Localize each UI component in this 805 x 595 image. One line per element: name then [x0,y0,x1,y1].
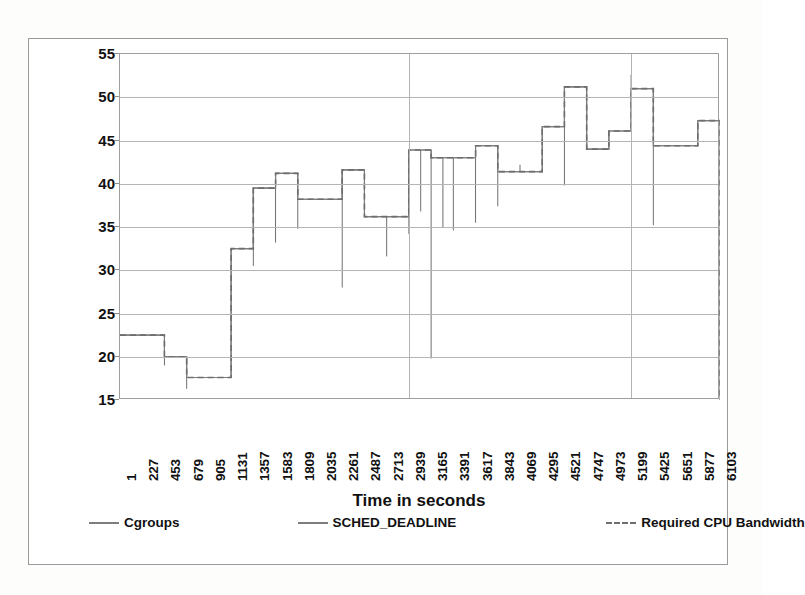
x-axis-ticks: 1227453679905113113571583180920352261248… [119,403,719,485]
x-tick-label: 3843 [502,452,517,481]
gridline [120,314,718,315]
x-tick-label: 5425 [657,452,672,481]
gridline [120,357,718,358]
y-tick-label: 50 [75,88,115,105]
y-tick-mark [114,269,119,270]
legend-item[interactable]: Required CPU Bandwidth [606,516,805,530]
x-tick-label: 5651 [680,452,695,481]
y-tick-label: 30 [75,261,115,278]
legend-item[interactable]: Cgroups [89,516,180,530]
legend-item[interactable]: SCHED_DEADLINE [298,516,457,530]
x-tick-label: 6103 [724,452,739,481]
x-tick-label: 5199 [635,452,650,481]
y-tick-mark [114,356,119,357]
x-tick-label: 4521 [568,452,583,481]
x-tick-label: 1357 [257,452,272,481]
gridline [120,141,718,142]
y-tick-mark [114,53,119,54]
chart-frame: Cpu Bandwidth % 555045403530252015 12274… [28,38,728,565]
y-tick-mark [114,183,119,184]
legend-dashed-line-icon [606,522,636,524]
gridline [120,184,718,185]
x-tick-label: 4295 [546,452,561,481]
gridline [120,270,718,271]
y-tick-mark [114,96,119,97]
y-tick-label: 15 [75,391,115,408]
x-tick-label: 227 [146,459,161,481]
y-tick-label: 20 [75,347,115,364]
y-tick-mark [114,313,119,314]
y-tick-label: 40 [75,174,115,191]
x-tick-label: 1809 [302,452,317,481]
vertical-gridline [631,54,632,398]
x-tick-label: 2035 [324,452,339,481]
y-tick-mark [114,399,119,400]
y-tick-label: 25 [75,304,115,321]
x-tick-label: 2713 [391,452,406,481]
x-tick-label: 1583 [280,452,295,481]
y-tick-label: 45 [75,131,115,148]
y-tick-mark [114,226,119,227]
x-tick-label: 3617 [480,452,495,481]
plot-area [119,53,719,399]
legend-label: Required CPU Bandwidth [641,516,805,530]
gridline [120,97,718,98]
y-tick-mark [114,140,119,141]
x-tick-label: 905 [213,459,228,481]
x-tick-label: 2487 [368,452,383,481]
x-tick-label: 2261 [346,452,361,481]
x-tick-label: 4973 [613,452,628,481]
x-tick-label: 5877 [702,452,717,481]
chart-legend: CgroupsSCHED_DEADLINERequired CPU Bandwi… [89,509,709,537]
x-tick-label: 4747 [591,452,606,481]
x-tick-label: 3165 [435,452,450,481]
gridlines [120,54,718,398]
legend-solid-line-icon [298,522,328,524]
legend-solid-line-icon [89,522,119,524]
x-axis-title: Time in seconds [119,491,719,511]
legend-label: SCHED_DEADLINE [333,516,457,530]
vertical-gridline [409,54,410,398]
y-tick-label: 35 [75,218,115,235]
y-tick-label: 55 [75,45,115,62]
x-tick-label: 1131 [235,453,250,482]
x-tick-label: 4069 [524,452,539,481]
x-tick-label: 2939 [413,452,428,481]
x-tick-label: 679 [191,459,206,481]
plot-wrapper: 555045403530252015 [119,53,719,399]
legend-label: Cgroups [124,516,180,530]
x-tick-label: 453 [168,459,183,481]
x-tick-label: 3391 [457,452,472,481]
x-tick-label: 1 [124,474,139,481]
gridline [120,227,718,228]
